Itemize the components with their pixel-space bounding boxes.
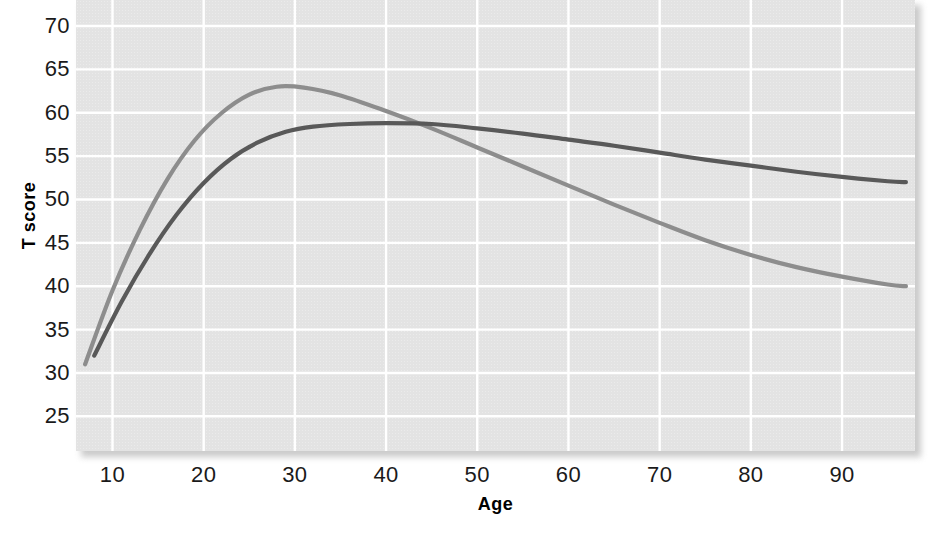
x-axis-tick-labels: 102030405060708090 <box>76 462 915 492</box>
y-tick-label-30: 30 <box>6 360 70 386</box>
x-tick-label-40: 40 <box>373 462 398 488</box>
curve-light-gray-curve <box>85 86 906 364</box>
y-tick-label-25: 25 <box>6 403 70 429</box>
data-curves <box>76 0 915 451</box>
y-tick-label-70: 70 <box>6 13 70 39</box>
y-axis-title: T score <box>19 166 40 266</box>
x-tick-label-90: 90 <box>829 462 854 488</box>
y-tick-label-65: 65 <box>6 56 70 82</box>
x-tick-label-50: 50 <box>465 462 490 488</box>
x-tick-label-30: 30 <box>282 462 307 488</box>
plot-area <box>76 0 915 451</box>
y-tick-label-35: 35 <box>6 317 70 343</box>
x-tick-label-80: 80 <box>738 462 763 488</box>
x-tick-label-60: 60 <box>556 462 581 488</box>
y-tick-label-60: 60 <box>6 100 70 126</box>
x-axis-title: Age <box>76 494 915 515</box>
chart-figure: 70656055504540353025 102030405060708090 … <box>0 0 928 533</box>
x-tick-label-10: 10 <box>100 462 125 488</box>
x-tick-label-70: 70 <box>647 462 672 488</box>
x-tick-label-20: 20 <box>191 462 216 488</box>
y-tick-label-40: 40 <box>6 273 70 299</box>
